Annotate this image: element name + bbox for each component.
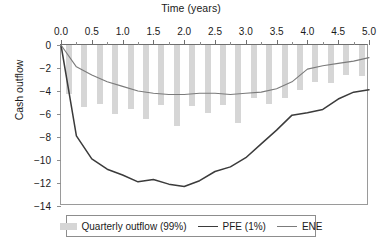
bar-swatch-icon — [60, 223, 77, 230]
line-series-layer — [61, 45, 369, 206]
legend-item-pfe: PFE (1%) — [198, 221, 266, 232]
chart-title: Time (years) — [0, 2, 382, 14]
x-tick-minor — [354, 42, 355, 45]
x-tick-label: 2.5 — [208, 26, 222, 37]
x-tick-label: 0.5 — [85, 26, 99, 37]
legend-label: PFE (1%) — [223, 221, 266, 232]
x-tick-label: 4.5 — [331, 26, 345, 37]
x-tick — [307, 40, 308, 45]
x-tick-minor — [169, 42, 170, 45]
x-tick — [338, 40, 339, 45]
legend-item-ene: ENE — [277, 221, 323, 232]
y-tick-label: −8 — [40, 132, 57, 143]
x-tick — [123, 40, 124, 45]
x-tick-minor — [261, 42, 262, 45]
y-tick — [57, 137, 61, 138]
x-tick-minor — [323, 42, 324, 45]
x-tick — [153, 40, 154, 45]
y-tick-label: −6 — [40, 109, 57, 120]
plot-area: 0.00.51.01.52.02.53.03.54.04.55.0 0−2−4−… — [60, 44, 368, 205]
y-tick — [57, 68, 61, 69]
x-tick — [277, 40, 278, 45]
x-tick-minor — [292, 42, 293, 45]
x-tick-minor — [138, 42, 139, 45]
y-tick — [57, 114, 61, 115]
y-tick — [57, 91, 61, 92]
y-tick — [57, 183, 61, 184]
y-tick — [57, 206, 61, 207]
legend-item-quarterly-outflow: Quarterly outflow (99%) — [60, 221, 187, 232]
x-tick-label: 1.0 — [116, 26, 130, 37]
x-tick-minor — [230, 42, 231, 45]
x-tick-minor — [200, 42, 201, 45]
y-tick — [57, 160, 61, 161]
x-tick-label: 1.5 — [146, 26, 160, 37]
chart-legend: Quarterly outflow (99%) PFE (1%) ENE — [66, 215, 316, 237]
y-tick — [57, 45, 61, 46]
y-tick-label: 0 — [45, 40, 57, 51]
line-swatch-icon — [277, 226, 297, 227]
y-tick-label: −2 — [40, 63, 57, 74]
line-series-ene — [61, 45, 369, 94]
y-axis-label: Cash outflow — [13, 30, 25, 150]
y-tick-label: −4 — [40, 86, 57, 97]
x-tick — [246, 40, 247, 45]
x-tick-label: 4.0 — [300, 26, 314, 37]
line-swatch-icon — [198, 226, 218, 227]
x-tick-label: 5.0 — [362, 26, 376, 37]
x-tick-label: 3.5 — [270, 26, 284, 37]
y-tick-label: −10 — [34, 155, 57, 166]
chart-figure: Time (years) Cash outflow 0.00.51.01.52.… — [0, 0, 382, 243]
legend-label: Quarterly outflow (99%) — [82, 221, 187, 232]
x-tick-label: 0.0 — [54, 26, 68, 37]
x-tick-minor — [76, 42, 77, 45]
x-tick — [184, 40, 185, 45]
x-tick — [92, 40, 93, 45]
legend-label: ENE — [302, 221, 323, 232]
x-tick-label: 2.0 — [177, 26, 191, 37]
y-tick-label: −14 — [34, 201, 57, 212]
y-tick-label: −12 — [34, 178, 57, 189]
x-tick — [61, 40, 62, 45]
x-tick-label: 3.0 — [239, 26, 253, 37]
x-tick — [369, 40, 370, 45]
x-tick-minor — [107, 42, 108, 45]
x-tick — [215, 40, 216, 45]
